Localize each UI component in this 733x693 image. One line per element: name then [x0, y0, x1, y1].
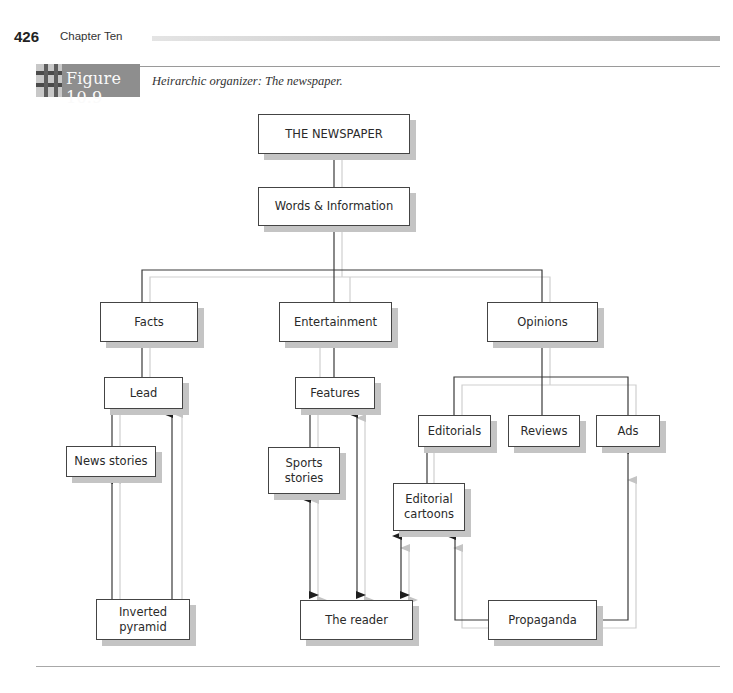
connector-lines	[0, 0, 733, 693]
node-editorials: Editorials	[418, 415, 491, 447]
node-opinions: Opinions	[487, 302, 598, 342]
node-editorial-cartoons: Editorial cartoons	[393, 483, 465, 531]
node-news-stories: News stories	[66, 446, 156, 477]
textbook-page: 426 Chapter Ten Figure 10.9 Heirarchic o…	[0, 0, 733, 693]
node-sports-stories: Sports stories	[268, 447, 340, 494]
node-the-reader: The reader	[300, 600, 413, 640]
node-entertainment: Entertainment	[279, 302, 392, 342]
node-the-newspaper: THE NEWSPAPER	[258, 114, 410, 154]
node-features: Features	[295, 377, 375, 409]
bottom-rule	[36, 666, 720, 667]
node-lead: Lead	[104, 377, 183, 409]
node-ads: Ads	[596, 415, 660, 447]
node-words-information: Words & Information	[258, 187, 410, 226]
node-facts: Facts	[100, 302, 198, 342]
node-inverted-pyramid: Inverted pyramid	[96, 599, 190, 640]
node-reviews: Reviews	[508, 415, 580, 447]
node-propaganda: Propaganda	[488, 600, 597, 640]
